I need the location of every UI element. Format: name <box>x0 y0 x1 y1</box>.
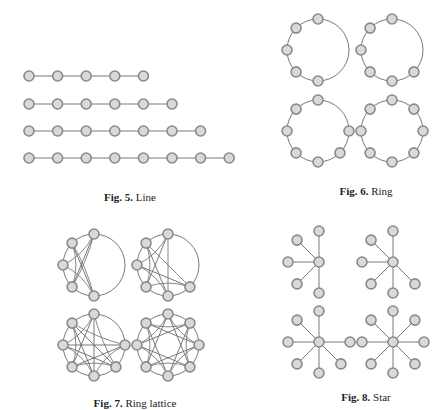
node <box>365 148 375 158</box>
node <box>163 229 173 239</box>
caption-fig7-title: Ring lattice <box>125 397 176 409</box>
leaf-node <box>314 368 324 378</box>
node <box>387 95 397 105</box>
fig8-graph-2 <box>357 226 420 298</box>
node <box>58 340 68 350</box>
node <box>356 126 366 136</box>
node <box>81 71 91 81</box>
fig8-graph-3 <box>283 306 355 378</box>
node <box>167 153 177 163</box>
leaf-node <box>283 337 293 347</box>
leaf-node <box>314 306 324 316</box>
node <box>185 318 195 328</box>
node <box>110 99 120 109</box>
node <box>291 104 301 114</box>
node <box>185 282 195 292</box>
node <box>344 126 354 136</box>
fig7-graph-4 <box>132 309 204 381</box>
node <box>111 362 121 372</box>
node <box>224 153 234 163</box>
node <box>167 99 177 109</box>
node <box>291 23 301 33</box>
node <box>24 99 34 109</box>
leaf-node <box>314 226 324 236</box>
node <box>313 95 323 105</box>
node <box>110 71 120 81</box>
node <box>24 153 34 163</box>
figure-canvas <box>0 0 445 410</box>
node <box>387 14 397 24</box>
caption-fig5-title: Line <box>136 191 156 203</box>
caption-fig8-title: Star <box>373 391 391 403</box>
node <box>194 340 204 350</box>
node <box>138 71 148 81</box>
node <box>167 126 177 136</box>
leaf-node <box>292 315 302 325</box>
edge <box>146 363 190 367</box>
node <box>58 260 68 270</box>
leaf-node <box>388 306 398 316</box>
edge <box>146 323 190 327</box>
fig5-graph-4 <box>24 153 234 163</box>
fig8-graph-1 <box>283 226 324 298</box>
node <box>138 153 148 163</box>
node <box>81 99 91 109</box>
fig6-graph-3 <box>282 95 354 167</box>
edge <box>186 323 190 367</box>
node <box>24 71 34 81</box>
caption-fig7: Fig. 7. Ring lattice <box>94 397 177 409</box>
node <box>132 260 142 270</box>
figure-fig5 <box>24 71 234 163</box>
node <box>291 148 301 158</box>
fig8-graph-4 <box>357 306 429 378</box>
node <box>163 309 173 319</box>
hub-node <box>314 337 324 347</box>
node <box>89 371 99 381</box>
node <box>53 99 63 109</box>
node <box>67 318 77 328</box>
fig5-graph-1 <box>24 71 148 81</box>
caption-fig6-title: Ring <box>371 185 392 197</box>
node <box>409 67 419 77</box>
fig6-graph-1 <box>282 14 349 86</box>
leaf-node <box>419 337 429 347</box>
edge <box>146 323 150 367</box>
fig5-graph-2 <box>24 99 177 109</box>
edge <box>72 243 76 287</box>
node <box>313 14 323 24</box>
hub-node <box>388 257 398 267</box>
node <box>291 67 301 77</box>
node <box>110 126 120 136</box>
node <box>53 153 63 163</box>
caption-fig5: Fig. 5. Line <box>104 191 156 203</box>
node <box>67 282 77 292</box>
node <box>89 309 99 319</box>
node <box>365 104 375 114</box>
leaf-node <box>357 337 367 347</box>
leaf-node <box>283 257 293 267</box>
caption-fig6-label: Fig. 6. <box>339 185 368 197</box>
node <box>409 104 419 114</box>
node <box>418 126 428 136</box>
node <box>89 229 99 239</box>
leaf-node <box>366 235 376 245</box>
node <box>89 291 99 301</box>
node <box>81 126 91 136</box>
leaf-node <box>292 235 302 245</box>
node <box>387 76 397 86</box>
leaf-node <box>314 288 324 298</box>
hub-node <box>388 337 398 347</box>
node <box>365 23 375 33</box>
node <box>365 67 375 77</box>
leaf-node <box>292 279 302 289</box>
node <box>185 362 195 372</box>
node <box>313 157 323 167</box>
node <box>53 71 63 81</box>
leaf-node <box>366 359 376 369</box>
node <box>196 153 206 163</box>
hub-node <box>314 257 324 267</box>
node <box>409 148 419 158</box>
node <box>141 362 151 372</box>
node <box>138 126 148 136</box>
leaf-node <box>292 359 302 369</box>
